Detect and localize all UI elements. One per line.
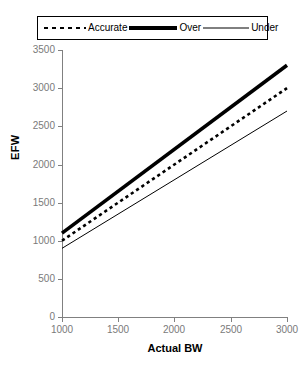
series-line-over bbox=[62, 65, 287, 233]
legend-item-over: Over bbox=[128, 23, 202, 33]
x-tick-label: 3000 bbox=[267, 325, 307, 335]
legend-item-accurate: Accurate bbox=[43, 23, 128, 33]
thin-line-icon bbox=[202, 23, 250, 33]
y-tick-mark bbox=[58, 50, 62, 51]
chart-figure: Accurate Over Under 3500 300 bbox=[0, 0, 307, 367]
x-tick-mark bbox=[174, 318, 175, 322]
y-tick-label: 2500 bbox=[20, 121, 55, 131]
y-tick-label: 0 bbox=[20, 312, 55, 322]
y-tick-mark bbox=[58, 88, 62, 89]
y-tick-mark bbox=[58, 279, 62, 280]
series-line-under bbox=[62, 111, 287, 248]
x-tick-mark bbox=[231, 318, 232, 322]
y-tick-label: 1000 bbox=[20, 236, 55, 246]
x-tick-label: 2500 bbox=[211, 325, 251, 335]
x-tick-label: 2000 bbox=[154, 325, 194, 335]
x-tick-label: 1000 bbox=[42, 325, 82, 335]
y-tick-mark bbox=[58, 126, 62, 127]
y-tick-label: 500 bbox=[20, 274, 55, 284]
x-axis-title: Actual BW bbox=[62, 342, 288, 354]
y-tick-label: 3000 bbox=[20, 83, 55, 93]
x-tick-mark bbox=[118, 318, 119, 322]
y-tick-label: 3500 bbox=[20, 45, 55, 55]
y-tick-mark bbox=[58, 203, 62, 204]
x-axis-line bbox=[62, 317, 288, 318]
thick-line-icon bbox=[128, 23, 178, 33]
series-line-accurate bbox=[62, 88, 287, 241]
y-tick-label: 1500 bbox=[20, 198, 55, 208]
y-tick-label: 2000 bbox=[20, 160, 55, 170]
y-tick-mark bbox=[58, 165, 62, 166]
legend-label-under: Under bbox=[250, 23, 279, 33]
y-tick-mark bbox=[58, 241, 62, 242]
x-tick-mark bbox=[287, 318, 288, 322]
x-tick-mark bbox=[62, 318, 63, 322]
chart-legend: Accurate Over Under bbox=[37, 16, 268, 40]
y-axis-title: EFW bbox=[9, 135, 21, 160]
x-tick-label: 1500 bbox=[98, 325, 138, 335]
legend-item-under: Under bbox=[202, 23, 279, 33]
dashed-line-icon bbox=[43, 23, 87, 33]
legend-label-over: Over bbox=[178, 23, 202, 33]
y-axis-line bbox=[62, 50, 63, 318]
legend-label-accurate: Accurate bbox=[87, 23, 128, 33]
